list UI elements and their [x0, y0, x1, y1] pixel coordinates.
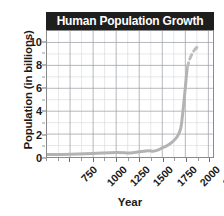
x-tick-mark — [163, 158, 164, 162]
y-tick-label: 6 — [20, 83, 42, 94]
x-tick-mark-minor — [128, 158, 129, 161]
x-tick-label: 1250 — [128, 164, 152, 188]
y-axis-tick-labels: 0246810 — [20, 30, 42, 158]
x-tick-mark — [69, 158, 70, 162]
x-axis-title: Year — [46, 196, 214, 208]
x-tick-label: 2000 — [198, 164, 222, 188]
y-tick-label: 2 — [20, 129, 42, 140]
x-tick-label: 1750 — [174, 164, 198, 188]
x-tick-mark — [116, 158, 117, 162]
plot-area — [46, 30, 214, 158]
x-tick-mark — [209, 158, 210, 162]
x-tick-mark-minor — [58, 158, 59, 161]
chart-title: Human Population Growth — [46, 12, 214, 30]
x-tick-mark-minor — [104, 158, 105, 161]
x-tick-mark-minor — [46, 158, 47, 161]
y-tick-label: 4 — [20, 106, 42, 117]
x-tick-mark-minor — [81, 158, 82, 161]
y-tick-mark-minor — [42, 76, 45, 77]
y-tick-mark-minor — [42, 99, 45, 100]
x-tick-mark-minor — [174, 158, 175, 161]
x-tick-label: 1000 — [104, 164, 128, 188]
y-tick-mark-minor — [42, 123, 45, 124]
x-tick-label: 750 — [79, 164, 99, 184]
population-curve — [47, 31, 213, 157]
y-tick-mark-minor — [42, 146, 45, 147]
x-tick-mark — [186, 158, 187, 162]
y-tick-mark-minor — [42, 53, 45, 54]
x-tick-mark — [93, 158, 94, 162]
y-tick-label: 0 — [20, 153, 42, 164]
x-tick-label: 2250 — [221, 164, 224, 188]
x-tick-mark-minor — [151, 158, 152, 161]
x-tick-label: 1500 — [151, 164, 175, 188]
y-tick-label: 10 — [20, 36, 42, 47]
y-tick-label: 8 — [20, 59, 42, 70]
x-tick-mark-minor — [198, 158, 199, 161]
x-tick-mark — [139, 158, 140, 162]
chart-figure: Population (in billions) 0246810 Human P… — [0, 0, 224, 216]
